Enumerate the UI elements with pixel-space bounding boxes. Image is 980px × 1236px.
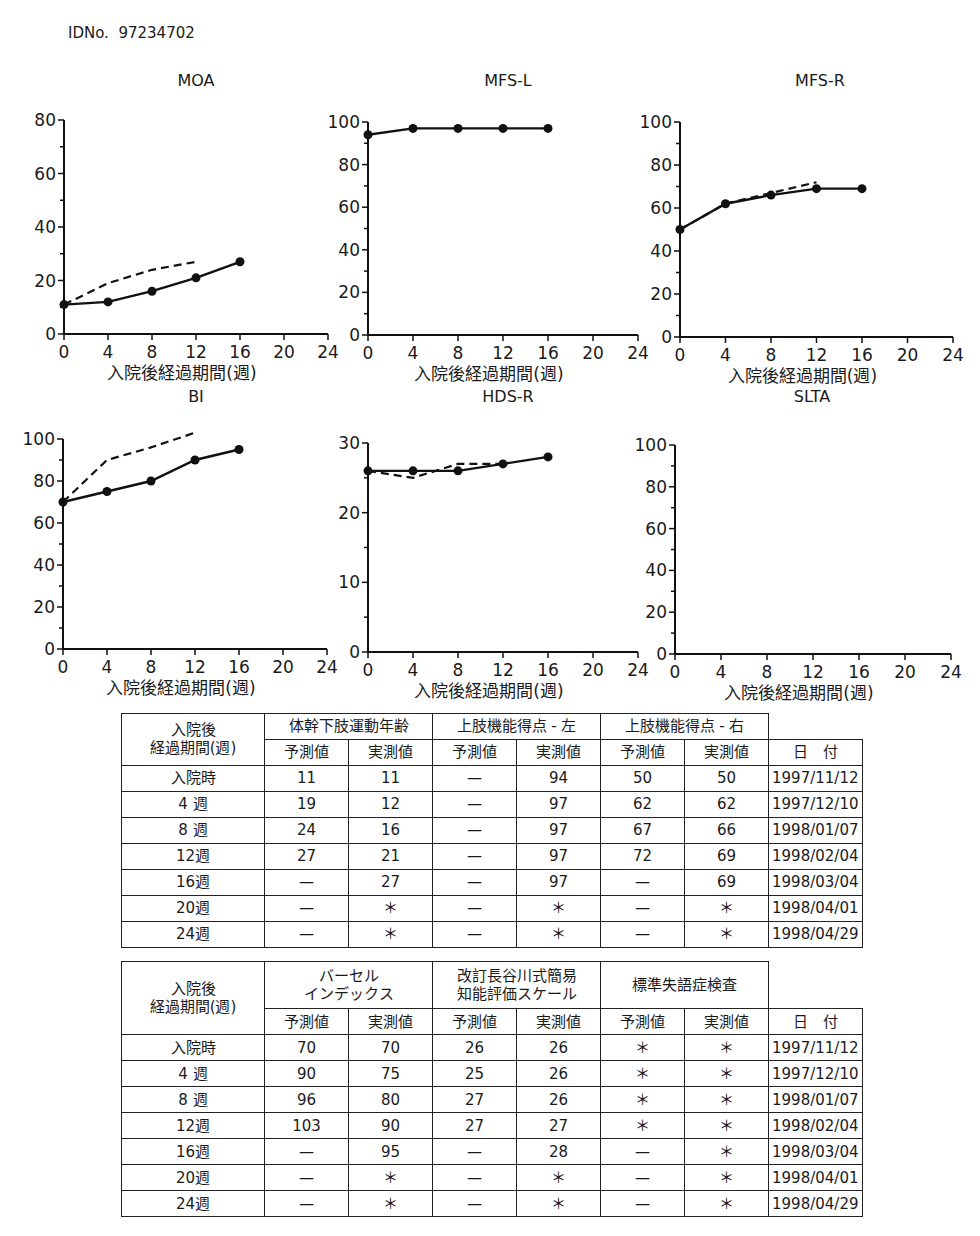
- value-cell: —: [265, 895, 349, 921]
- value-cell: ＊: [601, 1087, 685, 1113]
- period-cell: 24週: [122, 921, 265, 947]
- value-cell: 90: [265, 1061, 349, 1087]
- x-tick-label: 16: [851, 345, 873, 365]
- x-tick-label: 4: [716, 662, 727, 682]
- y-tick-label: 60: [34, 164, 56, 184]
- y-tick-label: 40: [338, 240, 360, 260]
- value-cell: ＊: [349, 895, 433, 921]
- data-point: [454, 124, 463, 133]
- chart-slta: SLTA02040608010004812162024入院後経過期間(週): [635, 387, 962, 703]
- group-header: 体幹下肢運動年齢: [265, 714, 433, 740]
- x-tick-label: 0: [670, 662, 681, 682]
- date-cell: 1998/03/04: [769, 1139, 863, 1165]
- value-cell: —: [601, 1165, 685, 1191]
- results-table-2: 入院後経過期間(週)バーセルインデックス改訂長谷川式簡易知能評価スケール標準失語…: [121, 961, 863, 1217]
- y-tick-label: 60: [338, 197, 360, 217]
- date-cell: 1998/01/07: [769, 817, 863, 843]
- series-predicted: [63, 433, 195, 502]
- value-cell: ＊: [517, 921, 601, 947]
- x-tick-label: 0: [363, 660, 374, 680]
- y-tick-label: 20: [34, 271, 56, 291]
- date-cell: 1998/03/04: [769, 869, 863, 895]
- date-cell: 1998/04/01: [769, 1165, 863, 1191]
- period-cell: 20週: [122, 1165, 265, 1191]
- x-tick-label: 4: [408, 343, 419, 363]
- y-tick-label: 0: [656, 644, 667, 664]
- sub-header: 実測値: [349, 1009, 433, 1035]
- value-cell: ＊: [601, 1061, 685, 1087]
- x-tick-label: 24: [316, 657, 338, 677]
- value-cell: ＊: [685, 1113, 769, 1139]
- sub-header: 実測値: [349, 739, 433, 765]
- value-cell: —: [265, 1139, 349, 1165]
- date-cell: 1998/01/07: [769, 1087, 863, 1113]
- x-tick-label: 24: [627, 660, 649, 680]
- date-cell: 1998/04/29: [769, 1191, 863, 1217]
- x-tick-label: 12: [185, 342, 207, 362]
- x-axis-label: 入院後経過期間(週): [106, 678, 255, 698]
- x-tick-label: 4: [720, 345, 731, 365]
- table-row: 20週—＊—＊—＊1998/04/01: [122, 1165, 863, 1191]
- x-tick-label: 16: [229, 342, 251, 362]
- date-cell: 1998/02/04: [769, 843, 863, 869]
- date-cell: 1998/04/01: [769, 895, 863, 921]
- sub-header: 実測値: [685, 739, 769, 765]
- table-row: 24週—＊—＊—＊1998/04/29: [122, 921, 863, 947]
- date-header: 日 付: [769, 739, 863, 765]
- table-row: 入院時70702626＊＊1997/11/12: [122, 1035, 863, 1061]
- x-tick-label: 4: [102, 657, 113, 677]
- value-cell: —: [601, 869, 685, 895]
- table-row: 8 週2416—9767661998/01/07: [122, 817, 863, 843]
- x-tick-label: 16: [228, 657, 250, 677]
- x-tick-label: 8: [147, 342, 158, 362]
- x-axis-label: 入院後経過期間(週): [728, 366, 877, 386]
- value-cell: —: [265, 1165, 349, 1191]
- period-cell: 12週: [122, 843, 265, 869]
- y-tick-label: 20: [338, 503, 360, 523]
- value-cell: 11: [265, 765, 349, 791]
- chart-bi: BI02040608010004812162024入院後経過期間(週): [23, 387, 338, 698]
- value-cell: —: [601, 1139, 685, 1165]
- period-cell: 4 週: [122, 1061, 265, 1087]
- y-tick-label: 60: [33, 513, 55, 533]
- value-cell: —: [601, 1191, 685, 1217]
- x-tick-label: 20: [897, 345, 919, 365]
- date-header: 日 付: [769, 1009, 863, 1035]
- period-cell: 16週: [122, 869, 265, 895]
- value-cell: ＊: [685, 1087, 769, 1113]
- y-tick-label: 80: [645, 477, 667, 497]
- value-cell: 97: [517, 843, 601, 869]
- y-tick-label: 20: [645, 602, 667, 622]
- x-tick-label: 24: [317, 342, 339, 362]
- table-row: 16週—95—28—＊1998/03/04: [122, 1139, 863, 1165]
- sub-header: 予測値: [433, 739, 517, 765]
- group-header: バーセルインデックス: [265, 962, 433, 1009]
- value-cell: 27: [517, 1113, 601, 1139]
- value-cell: —: [433, 921, 517, 947]
- y-tick-label: 20: [33, 597, 55, 617]
- chart-title: SLTA: [794, 387, 830, 406]
- period-cell: 24週: [122, 1191, 265, 1217]
- value-cell: 95: [349, 1139, 433, 1165]
- data-point: [767, 191, 776, 200]
- value-cell: 16: [349, 817, 433, 843]
- value-cell: 96: [265, 1087, 349, 1113]
- x-tick-label: 16: [537, 660, 559, 680]
- y-tick-label: 0: [44, 639, 55, 659]
- value-cell: 27: [433, 1113, 517, 1139]
- value-cell: ＊: [349, 921, 433, 947]
- x-tick-label: 8: [766, 345, 777, 365]
- y-tick-label: 30: [338, 433, 360, 453]
- value-cell: ＊: [685, 895, 769, 921]
- series-measured: [63, 450, 239, 503]
- value-cell: 21: [349, 843, 433, 869]
- value-cell: 67: [601, 817, 685, 843]
- x-tick-label: 0: [58, 657, 69, 677]
- x-tick-label: 0: [59, 342, 70, 362]
- period-cell: 16週: [122, 1139, 265, 1165]
- data-point: [236, 257, 245, 266]
- value-cell: 27: [265, 843, 349, 869]
- value-cell: 26: [433, 1035, 517, 1061]
- value-cell: —: [601, 921, 685, 947]
- value-cell: ＊: [685, 1165, 769, 1191]
